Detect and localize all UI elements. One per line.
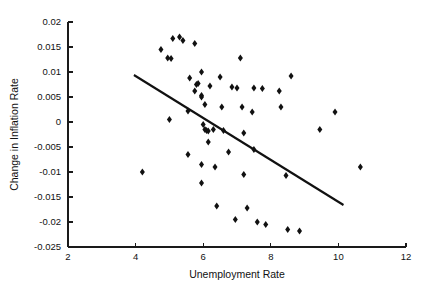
y-axis-title: Change in Inflation Rate xyxy=(8,78,20,191)
data-point-marker xyxy=(202,101,207,108)
x-axis-title: Unemployment Rate xyxy=(189,268,285,280)
axes-group xyxy=(68,22,406,247)
data-point-marker xyxy=(238,54,243,61)
x-tick-label: 2 xyxy=(65,251,70,262)
y-tick-label: 0.005 xyxy=(37,91,61,102)
data-point-marker xyxy=(251,84,256,91)
data-point-marker xyxy=(241,171,246,178)
data-point-marker xyxy=(187,74,192,81)
data-point-marker xyxy=(255,218,260,225)
regression-line-layer xyxy=(134,75,344,205)
x-tick-label: 4 xyxy=(133,251,138,262)
y-tick-label: -0.02 xyxy=(39,216,61,227)
data-point-marker xyxy=(284,172,289,179)
scatter-plot-figure: 0.020.0150.010.0050-0.005-0.01-0.015-0.0… xyxy=(0,0,426,285)
y-tick-label: -0.025 xyxy=(34,241,61,252)
data-point-marker xyxy=(317,126,322,133)
data-point-marker xyxy=(358,163,363,170)
data-point-marker xyxy=(233,216,238,223)
data-point-marker xyxy=(199,68,204,75)
data-point-marker xyxy=(206,138,211,145)
data-point-marker xyxy=(333,108,338,115)
x-axis-ticks: 24681012 xyxy=(65,243,411,263)
data-point-marker xyxy=(219,103,224,110)
data-point-marker xyxy=(170,35,175,42)
data-point-marker xyxy=(260,85,265,92)
plot-canvas: 0.020.0150.010.0050-0.005-0.01-0.015-0.0… xyxy=(0,0,426,285)
data-point-marker xyxy=(158,46,163,53)
data-point-marker xyxy=(140,168,145,175)
data-point-marker xyxy=(263,221,268,228)
data-point-marker xyxy=(192,40,197,47)
regression-line xyxy=(134,75,344,205)
data-point-marker xyxy=(245,204,250,211)
data-point-marker xyxy=(235,84,240,91)
data-point-marker xyxy=(169,55,174,62)
x-tick-label: 10 xyxy=(333,251,344,262)
y-tick-label: -0.01 xyxy=(39,166,61,177)
data-point-marker xyxy=(185,151,190,158)
data-point-marker xyxy=(240,103,245,110)
data-point-marker xyxy=(297,227,302,234)
data-point-marker xyxy=(250,108,255,115)
data-point-marker xyxy=(277,87,282,94)
data-point-marker xyxy=(192,87,197,94)
y-tick-label: 0.015 xyxy=(37,41,61,52)
data-point-marker xyxy=(241,129,246,136)
data-point-marker xyxy=(167,116,172,123)
y-tick-label: -0.005 xyxy=(34,141,61,152)
data-point-marker xyxy=(218,73,223,80)
data-point-marker xyxy=(207,82,212,89)
data-point-marker xyxy=(214,202,219,209)
data-point-marker xyxy=(226,148,231,155)
y-tick-label: 0.01 xyxy=(43,66,62,77)
y-tick-label: 0.02 xyxy=(43,16,62,27)
x-tick-label: 12 xyxy=(401,251,412,262)
data-point-marker xyxy=(289,72,294,79)
x-tick-label: 8 xyxy=(268,251,273,262)
y-axis-ticks: 0.020.0150.010.0050-0.005-0.01-0.015-0.0… xyxy=(34,16,72,252)
data-point-marker xyxy=(199,179,204,186)
data-point-marker xyxy=(199,161,204,168)
data-point-marker xyxy=(211,126,216,133)
y-tick-label: -0.015 xyxy=(34,191,61,202)
y-tick-label: 0 xyxy=(56,116,61,127)
data-points-layer xyxy=(140,33,363,234)
data-point-marker xyxy=(285,226,290,233)
data-point-marker xyxy=(213,163,218,170)
data-point-marker xyxy=(229,83,234,90)
data-point-marker xyxy=(278,103,283,110)
x-tick-label: 6 xyxy=(201,251,206,262)
